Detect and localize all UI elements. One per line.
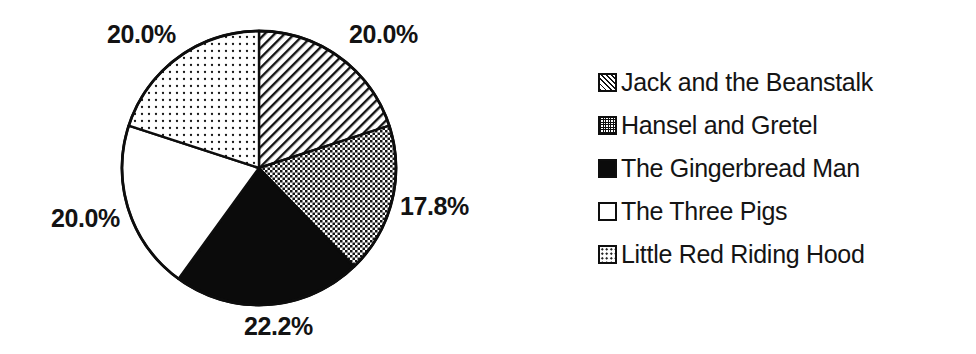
checkerboard-swatch-icon [598, 116, 617, 135]
dotted-swatch-icon [598, 245, 617, 264]
legend-item-little-red-riding-hood[interactable]: Little Red Riding Hood [598, 233, 968, 276]
chart-legend: Jack and the Beanstalk Hansel and Gretel… [598, 61, 968, 276]
pie-chart: 20.0% 20.0% 17.8% 22.2% 20.0% [0, 0, 520, 354]
pie-label-jack-and-the-beanstalk: 20.0% [349, 22, 418, 47]
legend-item-jack-and-the-beanstalk[interactable]: Jack and the Beanstalk [598, 61, 968, 104]
pie-label-the-gingerbread-man: 22.2% [244, 314, 313, 339]
white-swatch-icon [598, 202, 617, 221]
pie-label-little-red-riding-hood: 20.0% [107, 22, 176, 47]
pie-label-the-three-pigs: 20.0% [51, 206, 120, 231]
pie-chart-svg [0, 0, 520, 354]
solid-black-swatch-icon [598, 159, 617, 178]
legend-item-label: Little Red Riding Hood [621, 242, 865, 267]
pie-label-hansel-and-gretel: 17.8% [400, 194, 469, 219]
pie-chart-page: 20.0% 20.0% 17.8% 22.2% 20.0% Jack and t… [0, 0, 976, 354]
legend-item-label: Hansel and Gretel [621, 113, 817, 138]
legend-item-hansel-and-gretel[interactable]: Hansel and Gretel [598, 104, 968, 147]
legend-item-the-gingerbread-man[interactable]: The Gingerbread Man [598, 147, 968, 190]
legend-item-label: The Three Pigs [621, 199, 787, 224]
legend-item-label: The Gingerbread Man [621, 156, 860, 181]
legend-item-the-three-pigs[interactable]: The Three Pigs [598, 190, 968, 233]
diagonal-hatch-swatch-icon [598, 73, 617, 92]
legend-item-label: Jack and the Beanstalk [621, 70, 873, 95]
